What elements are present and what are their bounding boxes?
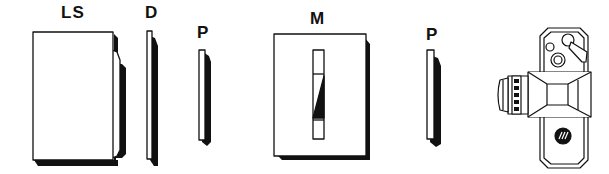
focus-ring [512, 76, 521, 114]
polarizer-2 [427, 50, 441, 147]
light-source-box [33, 32, 126, 166]
shutter-button [546, 43, 554, 51]
camera-icon [498, 28, 591, 168]
optical-setup-diagram [0, 0, 609, 174]
diffuser-plate [147, 31, 158, 166]
model-holder [274, 34, 370, 160]
polarizer-1 [199, 50, 211, 146]
